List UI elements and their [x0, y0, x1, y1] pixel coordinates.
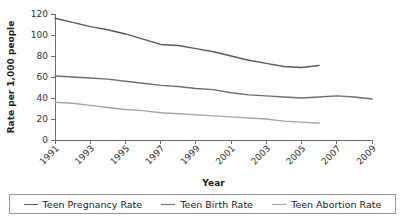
legend-label: Teen Birth Rate — [180, 199, 253, 210]
line-chart: 0204060801001201991199319951997199920012… — [0, 0, 405, 221]
y-tick-label: 40 — [37, 93, 49, 103]
plot-area: 0204060801001201991199319951997199920012… — [0, 0, 405, 190]
x-tick-label: 2003 — [249, 143, 272, 166]
legend-item[interactable]: Teen Pregnancy Rate — [24, 199, 143, 210]
x-tick-label: 1991 — [38, 143, 61, 166]
y-tick-label: 100 — [31, 30, 48, 40]
legend-label: Teen Pregnancy Rate — [43, 199, 143, 210]
chart-legend: Teen Pregnancy RateTeen Birth RateTeen A… — [9, 194, 396, 214]
x-tick-label: 2007 — [319, 143, 342, 166]
y-tick-label: 0 — [42, 135, 48, 145]
legend-item[interactable]: Teen Birth Rate — [161, 199, 253, 210]
legend-label: Teen Abortion Rate — [291, 199, 381, 210]
series-line-teen-abortion-rate — [55, 102, 319, 123]
chart-canvas: 0204060801001201991199319951997199920012… — [0, 0, 405, 190]
y-tick-label: 120 — [31, 9, 48, 19]
series-line-teen-pregnancy-rate — [55, 18, 319, 67]
legend-swatch-icon — [161, 204, 175, 205]
y-tick-label: 60 — [37, 72, 49, 82]
x-tick-label: 1993 — [73, 143, 96, 166]
y-tick-label: 80 — [37, 51, 49, 61]
x-tick-label: 1995 — [108, 143, 131, 166]
x-tick-label: 2009 — [355, 143, 378, 166]
x-tick-label: 2005 — [284, 143, 307, 166]
y-axis-title: Rate per 1,000 people — [6, 21, 16, 134]
y-tick-label: 20 — [37, 114, 49, 124]
x-axis-title: Year — [201, 178, 225, 188]
x-tick-label: 1997 — [143, 143, 166, 166]
x-tick-label: 2001 — [214, 143, 237, 166]
series-line-teen-birth-rate — [55, 76, 372, 99]
legend-item[interactable]: Teen Abortion Rate — [272, 199, 381, 210]
x-tick-label: 1999 — [179, 143, 202, 166]
legend-swatch-icon — [272, 204, 286, 205]
legend-swatch-icon — [24, 204, 38, 205]
